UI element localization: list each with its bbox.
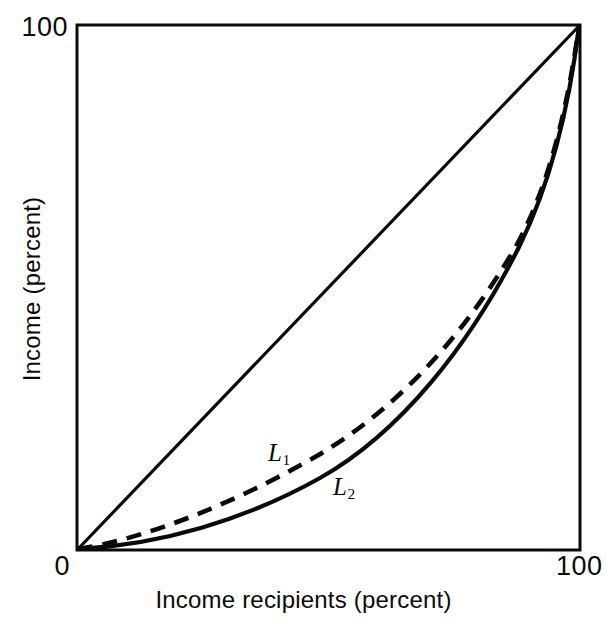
plot-canvas bbox=[0, 0, 607, 623]
y-axis-tick-100: 100 bbox=[12, 14, 68, 41]
x-axis-tick-100: 100 bbox=[556, 553, 606, 580]
curve-label-l2-letter: L bbox=[333, 473, 347, 500]
y-axis-title: Income (percent) bbox=[20, 144, 44, 434]
curve-label-l2: L2 bbox=[333, 474, 355, 499]
x-axis-title: Income recipients (percent) bbox=[0, 588, 607, 612]
lorenz-curve-figure: 100 0 100 Income recipients (percent) In… bbox=[0, 0, 607, 623]
curve-label-l2-subscript: 2 bbox=[347, 485, 355, 502]
curve-label-l1-subscript: 1 bbox=[282, 451, 290, 468]
line-of-equality bbox=[78, 26, 579, 549]
curve-label-l1-letter: L bbox=[268, 439, 282, 466]
curve-label-l1: L1 bbox=[268, 440, 290, 465]
x-axis-tick-0: 0 bbox=[44, 553, 70, 580]
